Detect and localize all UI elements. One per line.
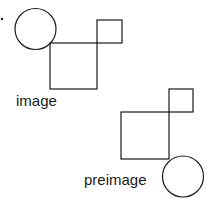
image-label: image [16, 93, 57, 108]
preimage-circle [163, 156, 204, 197]
marker-dot [1, 18, 3, 20]
preimage-small-square [169, 89, 193, 112]
image-figure [15, 9, 122, 90]
preimage-big-square [121, 112, 169, 159]
image-small-square [97, 20, 122, 43]
preimage-label: preimage [84, 172, 147, 187]
image-big-square [50, 43, 97, 89]
